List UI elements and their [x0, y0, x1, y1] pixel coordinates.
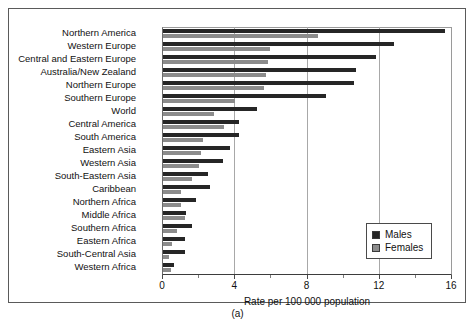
bar-males — [163, 198, 196, 202]
category-label: Central and Eastern Europe — [18, 54, 136, 64]
bar-group — [163, 119, 452, 131]
bar-males — [163, 55, 376, 59]
bar-group — [163, 158, 452, 170]
bar-males — [163, 250, 185, 254]
category-label: South-Central Asia — [57, 249, 136, 259]
category-label: Southern Europe — [64, 93, 136, 103]
bar-group — [163, 93, 452, 105]
category-label: Northern Europe — [66, 80, 136, 90]
bar-males — [163, 94, 326, 98]
x-tick-minor — [415, 275, 416, 278]
bar-males — [163, 159, 223, 163]
figure: 0481216 Northern AmericaWestern EuropeCe… — [0, 0, 475, 329]
bar-males — [163, 211, 186, 215]
x-axis-label: Rate per 100 000 population — [162, 296, 452, 307]
bar-males — [163, 107, 257, 111]
category-label: Eastern Asia — [83, 145, 136, 155]
bar-group — [163, 54, 452, 66]
bar-females — [163, 125, 224, 129]
x-tick-minor — [270, 275, 271, 278]
category-label: South America — [74, 132, 136, 142]
legend-item-females: Females — [372, 241, 423, 254]
x-tick-label: 12 — [373, 280, 384, 291]
bar-females — [163, 99, 235, 103]
bar-males — [163, 146, 230, 150]
bar-females — [163, 229, 177, 233]
x-tick-label: 8 — [304, 280, 310, 291]
bar-males — [163, 185, 210, 189]
bar-males — [163, 172, 208, 176]
bar-group — [163, 184, 452, 196]
bar-group — [163, 171, 452, 183]
bar-males — [163, 263, 174, 267]
bar-group — [163, 132, 452, 144]
x-tick-minor — [198, 275, 199, 278]
x-tick — [451, 275, 452, 279]
bar-group — [163, 80, 452, 92]
bar-females — [163, 216, 185, 220]
bar-males — [163, 224, 192, 228]
x-tick — [307, 275, 308, 279]
plot-area: 0481216 Northern AmericaWestern EuropeCe… — [162, 27, 461, 279]
bar-males — [163, 81, 354, 85]
bar-females — [163, 177, 192, 181]
bar-males — [163, 68, 356, 72]
bar-males — [163, 133, 239, 137]
bar-females — [163, 203, 181, 207]
bar-females — [163, 73, 266, 77]
legend-label-females: Females — [385, 242, 423, 253]
x-tick-label: 16 — [445, 280, 456, 291]
bar-group — [163, 262, 452, 274]
x-tick-label: 4 — [231, 280, 237, 291]
x-tick — [162, 275, 163, 279]
bar-females — [163, 151, 201, 155]
bar-group — [163, 67, 452, 79]
legend-item-males: Males — [372, 228, 423, 241]
bar-females — [163, 47, 270, 51]
category-label: Southern Africa — [71, 223, 136, 233]
bar-females — [163, 34, 318, 38]
chart-legend: Males Females — [366, 223, 432, 259]
bar-females — [163, 138, 203, 142]
bar-group — [163, 28, 452, 40]
x-tick — [379, 275, 380, 279]
category-label: Caribbean — [92, 184, 136, 194]
bar-males — [163, 237, 185, 241]
bar-females — [163, 255, 169, 259]
category-label: Central America — [68, 119, 136, 129]
x-tick-minor — [343, 275, 344, 278]
figure-frame: 0481216 Northern AmericaWestern EuropeCe… — [8, 8, 466, 303]
figure-caption: (a) — [0, 308, 475, 319]
category-label: South-Eastern Asia — [55, 171, 136, 181]
category-label: Western Europe — [68, 41, 136, 51]
category-label: Northern America — [62, 28, 136, 38]
legend-label-males: Males — [385, 229, 412, 240]
bar-females — [163, 60, 268, 64]
category-label: World — [111, 106, 136, 116]
bar-males — [163, 120, 239, 124]
x-tick-label: 0 — [159, 280, 165, 291]
x-tick — [234, 275, 235, 279]
category-label: Australia/New Zealand — [40, 67, 136, 77]
bar-females — [163, 164, 199, 168]
bar-females — [163, 242, 172, 246]
bar-females — [163, 268, 171, 272]
category-label: Northern Africa — [73, 197, 136, 207]
bar-males — [163, 42, 394, 46]
bar-group — [163, 41, 452, 53]
category-label: Eastern Africa — [77, 236, 136, 246]
bar-group — [163, 145, 452, 157]
category-label: Middle Africa — [82, 210, 136, 220]
category-label: Western Asia — [80, 158, 136, 168]
legend-swatch-males — [372, 231, 380, 239]
legend-swatch-females — [372, 244, 380, 252]
bar-group — [163, 197, 452, 209]
bar-group — [163, 106, 452, 118]
bar-group — [163, 210, 452, 222]
bar-females — [163, 86, 264, 90]
bar-males — [163, 29, 445, 33]
bar-females — [163, 190, 181, 194]
bar-females — [163, 112, 214, 116]
category-label: Western Africa — [74, 262, 136, 272]
